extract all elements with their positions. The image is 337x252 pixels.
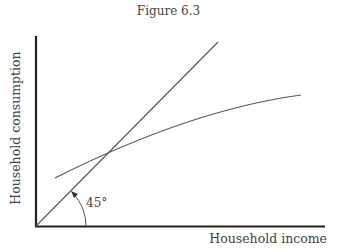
- 45-degree-line: [36, 42, 218, 226]
- consumption-curve: [55, 95, 301, 178]
- x-axis-label: Household income: [209, 231, 327, 246]
- angle-arc: [73, 193, 86, 226]
- arrowhead-icon: [71, 191, 78, 198]
- diagram-canvas: [0, 0, 337, 252]
- angle-label: 45°: [86, 196, 107, 210]
